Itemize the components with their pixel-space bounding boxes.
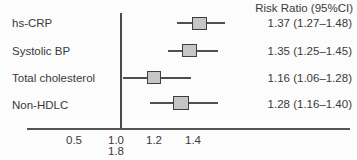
tick-label-1-2: 1.2 [146, 134, 162, 146]
row-label-total-cholesterol: Total cholesterol [12, 72, 95, 85]
tick-label-0-5: 0.5 [66, 134, 82, 146]
rr-value-hs-crp: 1.37 (1.27–1.48) [268, 17, 352, 30]
x-axis-line [27, 128, 350, 130]
point-marker-non-hdlc [173, 96, 189, 110]
row-label-systolic-bp: Systolic BP [12, 45, 70, 58]
rr-value-systolic-bp: 1.35 (1.25–1.45) [268, 45, 352, 58]
rr-value-non-hdlc: 1.28 (1.16–1.40) [268, 98, 352, 111]
rr-value-total-cholesterol: 1.16 (1.06–1.28) [268, 72, 352, 85]
reference-line-rr-1 [120, 13, 122, 129]
column-header-risk-ratio: Risk Ratio (95%CI) [255, 2, 353, 15]
forest-plot: Risk Ratio (95%CI) hs-CRP Systolic BP To… [0, 0, 357, 160]
tick-label-1-8: 1.8 [108, 145, 124, 157]
point-marker-hs-crp [192, 17, 207, 30]
tick-label-1-4: 1.4 [185, 134, 201, 146]
row-label-hs-crp: hs-CRP [12, 17, 52, 30]
point-marker-total-cholesterol [147, 71, 161, 84]
row-label-non-hdlc: Non-HDLC [12, 99, 68, 112]
point-marker-systolic-bp [182, 44, 197, 57]
